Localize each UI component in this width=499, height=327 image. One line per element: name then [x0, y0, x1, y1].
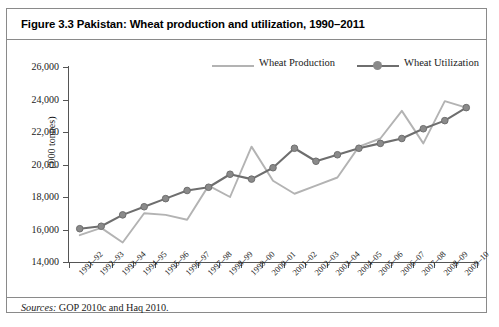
data-point-marker	[377, 140, 384, 147]
source-prefix: Sources:	[21, 302, 56, 313]
data-point-marker	[463, 104, 470, 111]
y-axis-tick-label: 20,000	[11, 160, 59, 170]
data-point-marker	[334, 151, 341, 158]
y-axis-tick	[63, 165, 68, 166]
data-point-marker	[98, 223, 105, 230]
y-axis-tick	[63, 197, 68, 198]
data-point-marker	[441, 117, 448, 124]
data-point-marker	[76, 225, 83, 232]
data-point-marker	[291, 145, 298, 152]
y-axis-tick	[63, 67, 68, 68]
figure-title: Figure 3.3 Pakistan: Wheat production an…	[21, 18, 461, 30]
y-axis-tick-label: 14,000	[11, 257, 59, 267]
data-point-marker	[356, 145, 363, 152]
y-axis-tick	[63, 132, 68, 133]
y-axis-tick-label: 18,000	[11, 192, 59, 202]
series-line-wheat-production	[80, 101, 467, 242]
plot-area	[69, 67, 477, 262]
y-axis-tick-label: 16,000	[11, 225, 59, 235]
series-layer	[69, 67, 477, 262]
data-point-marker	[227, 171, 234, 178]
data-point-marker	[205, 184, 212, 191]
y-axis-tick-label: 26,000	[11, 62, 59, 72]
data-point-marker	[270, 164, 277, 171]
data-point-marker	[313, 158, 320, 165]
source-note: Sources: GOP 2010c and Haq 2010.	[21, 302, 169, 313]
data-point-marker	[184, 187, 191, 194]
data-point-marker	[248, 176, 255, 183]
title-divider	[7, 39, 486, 40]
y-axis-tick-label: 24,000	[11, 95, 59, 105]
source-divider	[7, 297, 486, 298]
y-axis-tick	[63, 100, 68, 101]
data-point-marker	[399, 135, 406, 142]
x-axis-tick	[69, 263, 70, 268]
data-point-marker	[141, 203, 148, 210]
y-axis-tick	[63, 262, 68, 263]
data-point-marker	[119, 212, 126, 219]
data-point-marker	[420, 125, 427, 132]
source-text: GOP 2010c and Haq 2010.	[59, 302, 169, 313]
y-axis-tick-label: 22,000	[11, 127, 59, 137]
figure-container: Figure 3.3 Pakistan: Wheat production an…	[6, 8, 487, 313]
y-axis-tick	[63, 230, 68, 231]
data-point-marker	[162, 195, 169, 202]
